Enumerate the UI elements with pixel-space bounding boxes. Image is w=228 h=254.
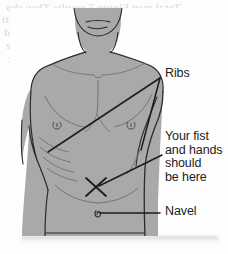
label-fist-placement: Your fist and hands should be here: [165, 130, 223, 184]
label-ribs: Ribs: [165, 67, 190, 81]
illustration-scene: Total men Figure 5 results They sho for …: [0, 0, 228, 254]
label-navel: Navel: [165, 205, 196, 219]
label-layer: Ribs Your fist and hands should be here …: [0, 0, 228, 254]
